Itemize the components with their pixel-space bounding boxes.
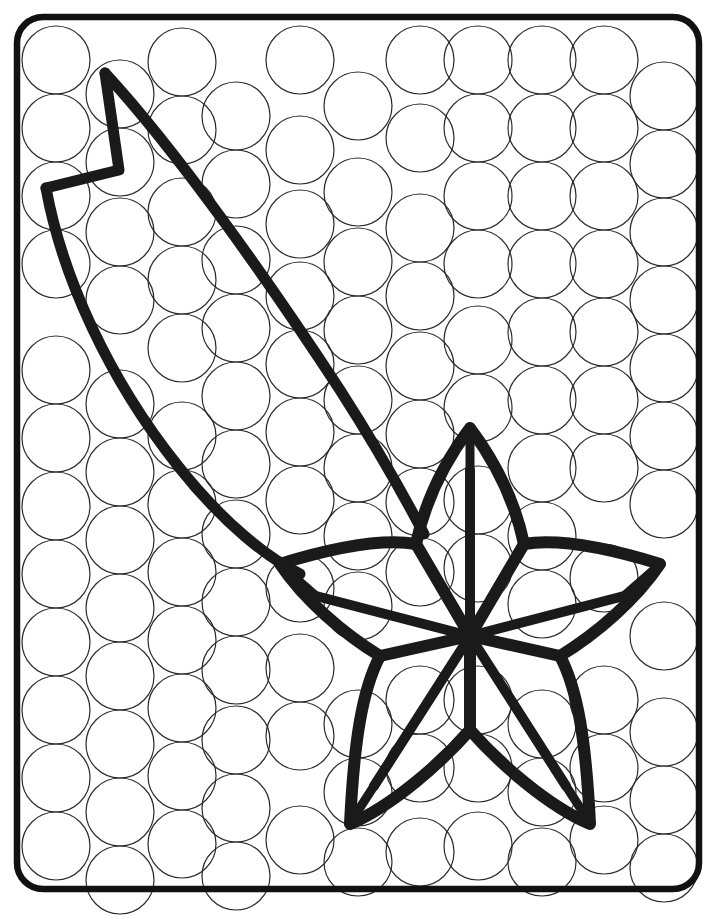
line-art-canvas [0,0,716,916]
artboard [0,0,716,916]
coloring-page [0,0,716,916]
star-center-hub [461,627,479,645]
